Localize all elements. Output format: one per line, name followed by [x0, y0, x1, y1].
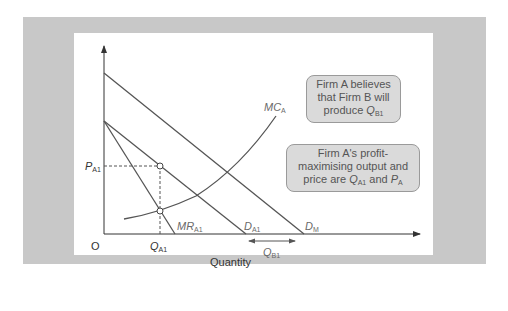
firm-a-demand-curve: [104, 121, 246, 234]
price-label: PA1: [85, 160, 101, 176]
callout-line: that Firm B will: [307, 91, 400, 104]
firm-a-demand-label: DA1: [244, 220, 261, 236]
callout-profit-maximising: Firm A's profit- maximising output and p…: [286, 144, 420, 192]
quantity-label: QA1: [150, 240, 167, 256]
callout-line: maximising output and: [287, 160, 419, 173]
mr-mc-intersection-marker: [157, 208, 163, 214]
mc-label: MCA: [264, 101, 286, 117]
market-demand-curve: [104, 73, 304, 234]
mr-label: MRA1: [177, 220, 203, 236]
qb1-label: QB1: [263, 246, 280, 262]
market-demand-label: DM: [305, 220, 319, 236]
oligopoly-diagram: [0, 0, 508, 311]
marginal-revenue-curve: [104, 121, 175, 234]
marginal-cost-curve: [124, 116, 276, 219]
callout-line: Firm A believes: [307, 78, 400, 91]
origin-label: O: [91, 240, 100, 252]
price-point-marker: [157, 163, 163, 169]
x-axis-label: Quantity: [210, 256, 251, 268]
callout-line: Firm A's profit-: [287, 147, 419, 160]
callout-firm-b-belief: Firm A believes that Firm B will produce…: [306, 75, 401, 123]
callout-line: price are QA1 and PA: [287, 173, 419, 189]
callout-line: produce QB1: [307, 104, 400, 120]
